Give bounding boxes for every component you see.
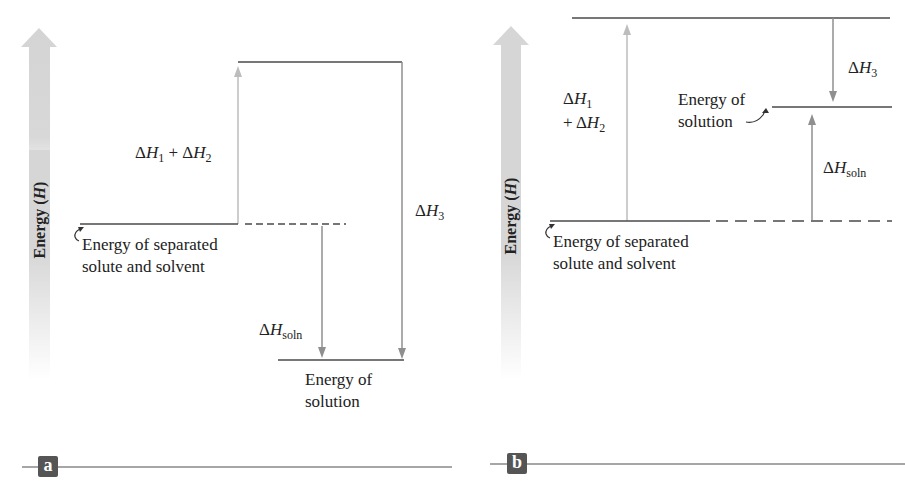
panel-badge-a: a — [38, 456, 58, 477]
panel-b-endothermic: Energy (H) ΔH1 + ΔH2 ΔH3 ΔHsoln Energy o… — [460, 0, 905, 504]
label-energy-solution: Energy of solution — [678, 89, 745, 133]
label-energy-separated: Energy of separated solute and solvent — [553, 231, 689, 275]
label-dh1-plus-dh2: ΔH1 + ΔH2 — [563, 87, 605, 135]
arrow-dhsoln-down-icon — [318, 226, 326, 358]
axis-label-energy: Energy (H) — [31, 171, 49, 269]
leader-hook-icon — [75, 229, 80, 241]
label-dhsoln: ΔHsoln — [823, 158, 866, 178]
label-dh3: ΔH3 — [415, 201, 444, 221]
leader-curve-icon — [746, 111, 765, 122]
arrow-dh1-dh2-up-icon — [623, 24, 631, 221]
arrow-dh3-down-icon — [398, 62, 406, 359]
panel-badge-b: b — [507, 453, 527, 474]
arrow-dhsoln-up-icon — [808, 114, 816, 220]
arrow-dh1-dh2-up-icon — [234, 66, 242, 224]
panel-a-exothermic: Energy (H) ΔH1 + ΔH2 ΔH3 ΔHsoln Energy o… — [0, 0, 460, 504]
arrow-dh3-down-icon — [829, 18, 837, 102]
axis-label-energy: Energy (H) — [502, 167, 520, 265]
label-dh1-plus-dh2: ΔH1 + ΔH2 — [135, 143, 212, 163]
label-energy-separated: Energy of separated solute and solvent — [82, 234, 218, 278]
panel-a-graphics — [0, 0, 460, 504]
label-energy-solution: Energy of solution — [305, 369, 372, 413]
leader-hook-icon — [546, 226, 551, 238]
label-dhsoln: ΔHsoln — [259, 320, 302, 340]
label-dh3: ΔH3 — [848, 58, 877, 78]
